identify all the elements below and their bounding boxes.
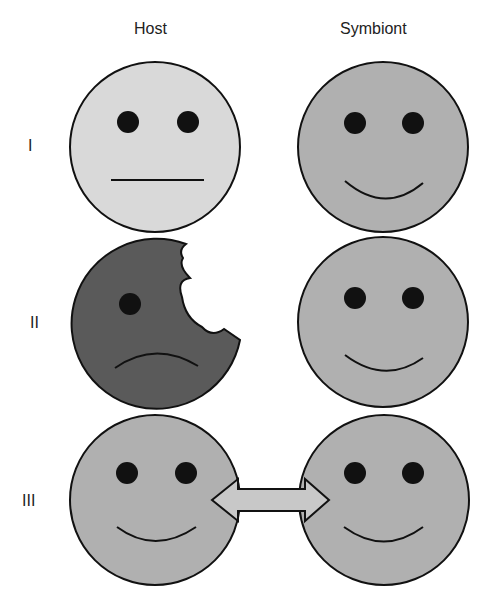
host-sad-bitten-face-icon bbox=[72, 239, 240, 409]
symbiosis-diagram bbox=[0, 0, 496, 611]
symbiont-happy-face-icon-1 bbox=[298, 62, 468, 232]
symbiont-happy-face-icon-2 bbox=[298, 237, 468, 407]
host-neutral-face-icon bbox=[70, 62, 240, 232]
double-arrow-icon bbox=[212, 479, 329, 521]
